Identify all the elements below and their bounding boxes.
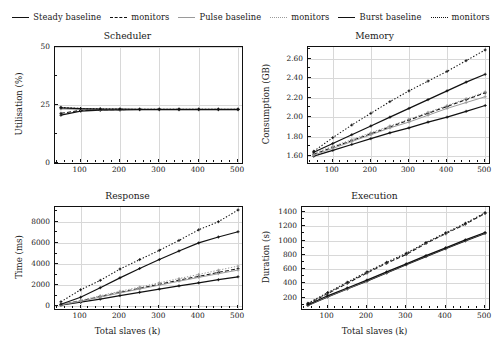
x-tick-mark <box>327 305 328 308</box>
series-marker <box>118 268 121 271</box>
x-minor-tick <box>174 306 175 308</box>
legend-label: Steady baseline <box>33 12 101 22</box>
x-tick-mark <box>370 159 371 162</box>
series-marker <box>388 100 391 103</box>
series-marker <box>178 284 181 287</box>
figure-canvas: Steady baselinemonitorsPulse baselinemon… <box>0 0 502 352</box>
x-minor-tick <box>221 306 222 308</box>
legend-pulse-baseline[interactable]: Pulse baseline <box>178 12 261 22</box>
x-minor-tick <box>385 160 386 162</box>
legend-burst-baseline[interactable]: Burst baseline <box>338 12 421 22</box>
plot-area <box>54 46 243 164</box>
y-tick-label: 4000 <box>31 259 50 268</box>
legend-line-swatch <box>110 14 127 21</box>
x-minor-tick <box>362 160 363 162</box>
series-marker <box>484 104 487 107</box>
x-minor-tick <box>453 306 454 308</box>
plot-area <box>307 46 490 164</box>
y-axis-label: Consumption (GB) <box>261 64 271 144</box>
x-minor-tick <box>390 306 391 308</box>
y-tick-mark <box>308 116 311 117</box>
legend-line-swatch <box>178 14 195 21</box>
y-tick-label: 0 <box>45 158 50 167</box>
x-tick-label: 400 <box>191 311 205 320</box>
y-tick-mark <box>302 268 305 269</box>
y-tick-mark <box>302 240 305 241</box>
y-tick-mark <box>302 225 305 226</box>
panel-title: Execution <box>251 190 498 201</box>
x-tick-mark <box>405 305 406 308</box>
y-tick-label: 25 <box>41 100 50 109</box>
y-tick-mark <box>302 282 305 283</box>
y-minor-tick <box>55 210 57 211</box>
x-minor-tick <box>103 160 104 162</box>
x-minor-tick <box>87 160 88 162</box>
y-tick-label: 1000 <box>278 235 297 244</box>
x-tick-label: 100 <box>73 165 87 174</box>
series-layer <box>308 47 489 163</box>
legend-steady-monitors[interactable]: monitors <box>110 12 169 22</box>
x-tick-mark <box>366 305 367 308</box>
x-minor-tick <box>127 160 128 162</box>
x-tick-mark <box>198 305 199 308</box>
legend-label: monitors <box>291 12 329 22</box>
x-minor-tick <box>229 160 230 162</box>
x-tick-label: 500 <box>230 311 244 320</box>
series-line <box>314 50 485 151</box>
legend-pulse-monitors[interactable]: monitors <box>270 12 329 22</box>
y-minor-tick <box>55 133 57 134</box>
panel-title: Scheduler <box>4 30 251 41</box>
x-minor-tick <box>150 160 151 162</box>
x-minor-tick <box>342 306 343 308</box>
y-tick-label: 2000 <box>31 280 50 289</box>
panel-memory: Memory1.601.802.002.202.402.601002003004… <box>251 30 498 188</box>
series-layer <box>55 47 242 163</box>
x-minor-tick <box>213 160 214 162</box>
gridline-horizontal <box>55 163 242 164</box>
legend-burst-monitors[interactable]: monitors <box>431 12 490 22</box>
series-marker <box>217 220 220 223</box>
x-minor-tick <box>182 160 183 162</box>
x-minor-tick <box>213 306 214 308</box>
y-tick-mark <box>308 97 311 98</box>
series-marker <box>217 236 220 239</box>
y-minor-tick <box>308 106 310 107</box>
y-tick-mark <box>308 58 311 59</box>
x-tick-mark <box>237 159 238 162</box>
x-minor-tick <box>334 306 335 308</box>
series-marker <box>99 279 102 282</box>
y-tick-mark <box>55 46 58 47</box>
x-minor-tick <box>95 160 96 162</box>
y-tick-mark <box>55 162 58 163</box>
legend-steady-baseline[interactable]: Steady baseline <box>12 12 101 22</box>
y-minor-tick <box>302 275 304 276</box>
series-line <box>314 93 485 154</box>
x-tick-mark <box>80 305 81 308</box>
x-minor-tick <box>431 160 432 162</box>
series-marker <box>369 137 372 140</box>
series-marker <box>465 101 468 104</box>
y-minor-tick <box>55 75 57 76</box>
x-minor-tick <box>437 306 438 308</box>
y-tick-label: 6000 <box>31 237 50 246</box>
x-tick-mark <box>237 305 238 308</box>
x-minor-tick <box>438 160 439 162</box>
x-tick-label: 100 <box>325 165 339 174</box>
y-tick-label: 2.40 <box>287 73 303 82</box>
x-minor-tick <box>413 306 414 308</box>
series-marker <box>217 278 220 281</box>
y-tick-label: 1200 <box>278 221 297 230</box>
x-minor-tick <box>324 160 325 162</box>
legend-line-swatch <box>431 14 448 21</box>
x-minor-tick <box>166 306 167 308</box>
y-tick-label: 2.60 <box>287 53 303 62</box>
y-minor-tick <box>308 48 310 49</box>
series-marker <box>388 131 391 134</box>
legend-label: monitors <box>131 12 169 22</box>
y-tick-mark <box>55 263 58 264</box>
panel-title: Memory <box>251 30 498 41</box>
x-minor-tick <box>400 160 401 162</box>
series-marker <box>59 300 62 303</box>
series-line <box>61 277 238 305</box>
series-marker <box>331 136 334 139</box>
